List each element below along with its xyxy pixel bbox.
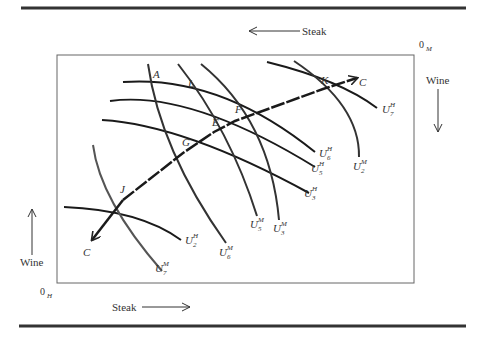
household-curve-u6 xyxy=(123,81,315,152)
merchant-curve-u7-label: U M 7 xyxy=(155,260,170,277)
point-g-label: G xyxy=(182,136,190,148)
svg-text:5: 5 xyxy=(319,169,323,177)
svg-text:7: 7 xyxy=(163,269,167,277)
point-f-label: F xyxy=(234,103,242,115)
svg-text:3: 3 xyxy=(280,229,285,237)
merchant-curve-u2-label: U M 2 xyxy=(353,158,368,175)
contract-curve-start-label: C xyxy=(83,246,91,258)
svg-text:5: 5 xyxy=(258,225,262,233)
household-curve-u5-label: U H 5 xyxy=(311,160,325,177)
svg-text:H: H xyxy=(311,185,318,193)
point-j-label: J xyxy=(120,183,126,195)
household-curve-u3-label: U H 3 xyxy=(304,185,318,202)
edgeworth-box-diagram: A L F E G J K C C U H 7 U H 6 U H 5 U H … xyxy=(0,0,478,340)
svg-text:M: M xyxy=(425,45,433,53)
svg-text:0: 0 xyxy=(40,286,45,297)
svg-text:M: M xyxy=(226,244,234,252)
svg-text:2: 2 xyxy=(193,241,197,249)
svg-text:H: H xyxy=(46,292,53,300)
household-curve-u2 xyxy=(64,207,181,240)
steak-label-top: Steak xyxy=(302,25,327,37)
svg-text:M: M xyxy=(280,220,288,228)
merchant-curve-u6-label: U M 6 xyxy=(219,244,234,261)
point-e-label: E xyxy=(211,116,219,128)
origin-merchant-label: 0 M xyxy=(419,39,433,53)
wine-label-left: Wine xyxy=(20,256,43,268)
contract-curve-main xyxy=(123,78,357,200)
household-curve-u5 xyxy=(110,100,315,167)
svg-text:0: 0 xyxy=(419,39,424,50)
svg-text:H: H xyxy=(192,232,199,240)
svg-text:M: M xyxy=(257,216,265,224)
point-k-label: K xyxy=(320,74,329,86)
svg-text:6: 6 xyxy=(327,154,331,162)
svg-text:7: 7 xyxy=(390,110,394,118)
contract-curve-end-label: C xyxy=(359,76,367,88)
household-curve-u2-label: U H 2 xyxy=(185,232,199,249)
household-curve-u7-label: U H 7 xyxy=(382,101,396,118)
svg-text:M: M xyxy=(162,260,170,268)
svg-text:2: 2 xyxy=(361,167,365,175)
merchant-curve-u3 xyxy=(201,64,279,220)
merchant-curve-u5-label: U M 5 xyxy=(250,216,265,233)
steak-label-bottom: Steak xyxy=(112,301,137,313)
svg-text:M: M xyxy=(360,158,368,166)
merchant-curve-u6 xyxy=(148,64,226,243)
household-curve-u3 xyxy=(102,120,309,193)
point-a-label: A xyxy=(152,68,160,80)
svg-text:H: H xyxy=(318,160,325,168)
wine-label-right: Wine xyxy=(426,74,449,86)
svg-text:H: H xyxy=(326,145,333,153)
svg-text:H: H xyxy=(389,101,396,109)
origin-household-label: 0 H xyxy=(40,286,53,300)
merchant-curve-u7 xyxy=(93,145,162,271)
svg-text:6: 6 xyxy=(227,253,231,261)
svg-text:3: 3 xyxy=(311,194,316,202)
contract-curve xyxy=(92,200,123,240)
point-l-label: L xyxy=(187,77,194,89)
merchant-curve-u3-label: U M 3 xyxy=(273,220,288,237)
